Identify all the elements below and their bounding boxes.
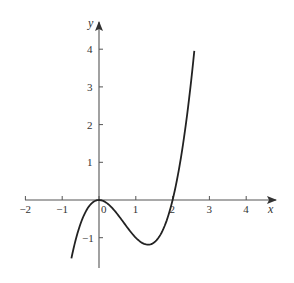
y-tick-label: 4 [87, 43, 93, 55]
y-axis: −11234 y [82, 16, 103, 268]
y-tick-label: 1 [87, 156, 93, 168]
y-tick-label: 2 [87, 119, 93, 131]
y-tick-label: −1 [82, 232, 94, 244]
x-tick-label: 1 [133, 203, 139, 215]
x-tick-label: 4 [243, 203, 249, 215]
x-axis-label: x [267, 202, 274, 216]
y-axis-label: y [87, 16, 94, 30]
x-tick-label: 0 [101, 203, 107, 215]
x-axis-ticks: −2−101234 [19, 196, 249, 215]
x-axis: −2−101234 x [19, 196, 276, 216]
x-tick-label: −1 [56, 203, 68, 215]
x-tick-label: −2 [19, 203, 31, 215]
y-tick-label: 3 [87, 81, 93, 93]
x-tick-label: 3 [206, 203, 212, 215]
cubic-function-graph: −2−101234 x −11234 y [0, 0, 294, 283]
